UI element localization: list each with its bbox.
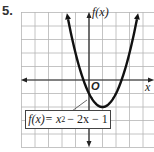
y-axis-arrow-down-icon bbox=[87, 141, 92, 147]
curve-arrow-left-icon bbox=[65, 13, 71, 19]
function-label-rest: − 2x − 1 bbox=[67, 112, 108, 127]
function-label: f(x) = x 2 − 2x − 1 bbox=[25, 110, 111, 129]
function-label-exponent: 2 bbox=[61, 115, 65, 124]
function-label-fx: f(x) bbox=[28, 112, 45, 127]
curve-arrow-right-icon bbox=[134, 13, 140, 19]
y-axis-label: f(x) bbox=[92, 5, 109, 20]
graph bbox=[0, 0, 154, 152]
origin-label: O bbox=[91, 80, 100, 92]
x-axis-label: x bbox=[145, 80, 150, 95]
function-label-eq: = x bbox=[45, 112, 61, 127]
